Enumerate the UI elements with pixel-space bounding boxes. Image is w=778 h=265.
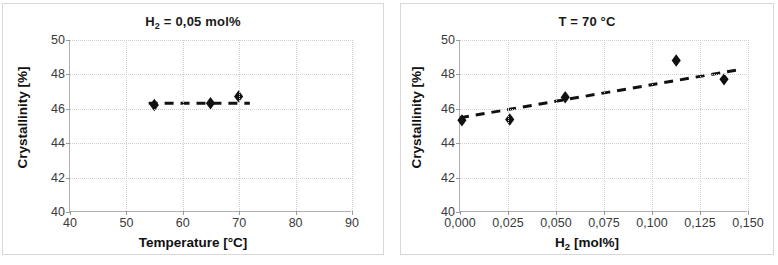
y-tick-label: 42 — [441, 171, 455, 185]
x-tick-mark — [556, 211, 557, 215]
x-tick-mark — [748, 211, 749, 215]
y-tick-mark — [66, 109, 70, 110]
x-tick-label: 80 — [289, 216, 303, 230]
x-tick-label: 0,000 — [444, 216, 475, 230]
y-tick-mark — [456, 178, 460, 179]
gridline-vertical — [748, 40, 749, 211]
gridline-vertical — [296, 40, 297, 211]
y-tick-mark — [456, 40, 460, 41]
x-tick-label: 40 — [63, 216, 77, 230]
y-tick-label: 50 — [51, 33, 65, 47]
y-tick-mark — [66, 74, 70, 75]
x-tick-label: 0,050 — [540, 216, 571, 230]
gridline-vertical — [352, 40, 353, 211]
chart-title-left-main: H — [145, 14, 155, 29]
trendline — [460, 70, 737, 118]
y-tick-mark — [456, 143, 460, 144]
gridline-horizontal — [70, 109, 351, 110]
chart-title-right-main: T = 70 °C — [558, 14, 615, 29]
y-tick-label: 48 — [441, 67, 455, 81]
gridline-vertical — [183, 40, 184, 211]
y-tick-label: 44 — [51, 136, 65, 150]
x-tick-mark — [460, 211, 461, 215]
x-tick-mark — [604, 211, 605, 215]
x-tick-mark — [508, 211, 509, 215]
chart-panel-hydrogen: T = 70 °C 4042444648500,0000,0250,0500,0… — [400, 3, 774, 255]
x-tick-mark — [239, 211, 240, 215]
series-layer-left — [70, 40, 351, 211]
y-tick-label: 46 — [441, 102, 455, 116]
gridline-horizontal — [70, 143, 351, 144]
gridline-horizontal — [70, 40, 351, 41]
x-tick-label: 90 — [345, 216, 359, 230]
x-tick-label: 0,150 — [732, 216, 763, 230]
chart-title-right: T = 70 °C — [401, 14, 773, 29]
gridline-horizontal — [70, 74, 351, 75]
x-tick-label: 0,025 — [492, 216, 523, 230]
x-tick-label: 0,075 — [588, 216, 619, 230]
x-tick-mark — [352, 211, 353, 215]
chart-title-left: H2 = 0,05 mol% — [3, 14, 383, 29]
gridline-vertical — [126, 40, 127, 211]
plot-area-right: 4042444648500,0000,0250,0500,0750,1000,1… — [459, 40, 747, 212]
y-tick-label: 42 — [51, 171, 65, 185]
data-point-marker — [672, 54, 681, 66]
gridline-vertical — [239, 40, 240, 211]
x-tick-label: 60 — [176, 216, 190, 230]
gridline-vertical — [556, 40, 557, 211]
chart-title-left-sub: 2 — [155, 21, 160, 31]
data-point-marker — [206, 97, 215, 109]
figure-row: H2 = 0,05 mol% 404244464850405060708090 … — [0, 0, 778, 265]
y-tick-mark — [66, 178, 70, 179]
x-tick-mark — [183, 211, 184, 215]
data-point-marker — [457, 114, 466, 126]
y-tick-mark — [66, 143, 70, 144]
y-tick-mark — [456, 74, 460, 75]
gridline-vertical — [652, 40, 653, 211]
x-axis-title-left: Temperature [°C] — [3, 235, 383, 250]
x-axis-title-right-rest: [mol%] — [570, 235, 619, 250]
x-tick-label: 0,100 — [636, 216, 667, 230]
x-tick-label: 50 — [119, 216, 133, 230]
data-point-marker — [561, 91, 570, 103]
y-axis-title-right: Crystallinity [%] — [409, 58, 424, 178]
chart-panel-temperature: H2 = 0,05 mol% 404244464850405060708090 … — [2, 3, 384, 255]
y-tick-label: 44 — [441, 136, 455, 150]
x-tick-label: 70 — [232, 216, 246, 230]
x-tick-mark — [700, 211, 701, 215]
gridline-horizontal — [70, 178, 351, 179]
gridline-vertical — [604, 40, 605, 211]
gridline-vertical — [508, 40, 509, 211]
plot-area-left: 404244464850405060708090 — [69, 40, 351, 212]
y-tick-label: 48 — [51, 67, 65, 81]
chart-title-left-rest: = 0,05 mol% — [160, 14, 241, 29]
x-tick-mark — [296, 211, 297, 215]
y-axis-title-left: Crystallinity [%] — [15, 58, 30, 178]
x-tick-label: 0,125 — [684, 216, 715, 230]
data-point-marker — [505, 113, 514, 125]
x-tick-mark — [652, 211, 653, 215]
gridline-vertical — [700, 40, 701, 211]
x-axis-title-right: H2 [mol%] — [401, 235, 773, 250]
y-tick-mark — [456, 109, 460, 110]
x-tick-mark — [70, 211, 71, 215]
y-tick-label: 46 — [51, 102, 65, 116]
x-axis-title-right-sub: 2 — [565, 241, 570, 252]
x-tick-mark — [126, 211, 127, 215]
y-tick-label: 50 — [441, 33, 455, 47]
y-tick-mark — [66, 40, 70, 41]
x-axis-title-right-main: H — [555, 235, 565, 250]
